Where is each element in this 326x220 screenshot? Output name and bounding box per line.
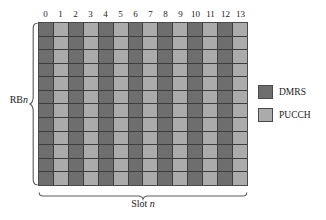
grid-cell xyxy=(173,77,187,91)
grid-cell xyxy=(69,104,83,118)
column-index-label-5: 5 xyxy=(113,7,128,21)
grid-column-12 xyxy=(218,23,233,185)
grid-cell xyxy=(39,104,53,118)
grid-cell xyxy=(129,50,143,64)
grid-cell xyxy=(114,118,128,132)
grid-cell xyxy=(84,50,98,64)
grid-cell xyxy=(114,50,128,64)
legend-item-pucch: PUCCH xyxy=(258,103,326,126)
grid-cell xyxy=(54,172,68,185)
grid-cell xyxy=(54,91,68,105)
grid-cell xyxy=(39,23,53,37)
grid-column-11 xyxy=(203,23,218,185)
grid-cell xyxy=(143,132,157,146)
grid-cell xyxy=(188,23,202,37)
grid-column-6 xyxy=(129,23,144,185)
grid-cell xyxy=(188,37,202,51)
column-index-label-0: 0 xyxy=(38,7,53,21)
grid-cell xyxy=(99,77,113,91)
grid-cell xyxy=(114,64,128,78)
grid-cell xyxy=(84,64,98,78)
grid-cell xyxy=(54,64,68,78)
grid-cell xyxy=(173,50,187,64)
column-index-labels: 012345678910111213 xyxy=(38,7,248,21)
pucch-resource-grid-figure: 012345678910111213 RBn Slot n DMRSPUCCH xyxy=(0,0,326,220)
grid-cell xyxy=(203,37,217,51)
rb-index-italic: n xyxy=(23,94,28,105)
grid-cell xyxy=(188,104,202,118)
grid-cell xyxy=(99,159,113,173)
grid-cell xyxy=(233,172,247,185)
rb-axis-group: RBn xyxy=(2,22,38,186)
grid-cell xyxy=(143,37,157,51)
grid-cell xyxy=(114,91,128,105)
grid-cell xyxy=(233,132,247,146)
column-index-label-3: 3 xyxy=(83,7,98,21)
grid-cell xyxy=(203,104,217,118)
grid-cell xyxy=(69,64,83,78)
grid-cell xyxy=(158,145,172,159)
grid-cell xyxy=(39,118,53,132)
grid-cell xyxy=(114,145,128,159)
rb-axis-label: RBn xyxy=(2,94,28,106)
grid-cell xyxy=(69,118,83,132)
grid-cell xyxy=(158,118,172,132)
grid-cell xyxy=(39,64,53,78)
grid-cell xyxy=(218,23,232,37)
grid-cell xyxy=(158,132,172,146)
grid-cell xyxy=(99,37,113,51)
grid-cell xyxy=(158,77,172,91)
grid-cell xyxy=(143,91,157,105)
grid-cell xyxy=(39,172,53,185)
rb-curly-brace-icon xyxy=(29,22,38,186)
grid-cell xyxy=(129,172,143,185)
grid-cell xyxy=(69,159,83,173)
slot-index-italic: n xyxy=(150,198,155,209)
grid-cell xyxy=(188,132,202,146)
column-index-label-6: 6 xyxy=(128,7,143,21)
grid-cell xyxy=(203,159,217,173)
grid-cell xyxy=(99,50,113,64)
slot-curly-brace-icon xyxy=(38,187,248,196)
grid-cell xyxy=(114,23,128,37)
grid-cell xyxy=(114,159,128,173)
grid-cell xyxy=(158,64,172,78)
grid-cell xyxy=(188,159,202,173)
grid-cell xyxy=(158,23,172,37)
grid-cell xyxy=(54,145,68,159)
grid-cell xyxy=(54,118,68,132)
grid-cell xyxy=(158,50,172,64)
grid-cell xyxy=(173,64,187,78)
grid-cell xyxy=(173,118,187,132)
grid-cell xyxy=(233,64,247,78)
grid-cell xyxy=(203,132,217,146)
grid-cell xyxy=(99,118,113,132)
column-index-label-4: 4 xyxy=(98,7,113,21)
grid-cell xyxy=(218,64,232,78)
grid-cell xyxy=(173,132,187,146)
legend: DMRSPUCCH xyxy=(258,80,326,126)
grid-cell xyxy=(173,145,187,159)
column-index-label-12: 12 xyxy=(218,7,233,21)
grid-cell xyxy=(39,77,53,91)
grid-column-3 xyxy=(84,23,99,185)
grid-cell xyxy=(158,172,172,185)
grid-cell xyxy=(99,23,113,37)
legend-swatch-pucch xyxy=(258,108,273,122)
grid-cell xyxy=(39,50,53,64)
grid-cell xyxy=(203,77,217,91)
grid-cell xyxy=(188,145,202,159)
grid-cell xyxy=(69,37,83,51)
grid-column-2 xyxy=(69,23,84,185)
grid-cell xyxy=(143,23,157,37)
grid-cell xyxy=(84,159,98,173)
grid-cell xyxy=(203,118,217,132)
grid-cell xyxy=(129,159,143,173)
grid-cell xyxy=(69,145,83,159)
grid-cell xyxy=(143,159,157,173)
grid-cell xyxy=(158,91,172,105)
grid-cell xyxy=(233,23,247,37)
grid-cell xyxy=(188,77,202,91)
grid-cell xyxy=(233,77,247,91)
grid-cell xyxy=(218,172,232,185)
